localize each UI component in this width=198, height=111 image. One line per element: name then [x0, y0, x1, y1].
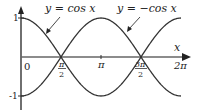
- cos-label-pointer: [48, 17, 60, 31]
- x-tick-label-pi: π: [97, 59, 105, 70]
- x-tick-label-2pi: 2π: [173, 60, 187, 71]
- origin-label: 0: [24, 61, 30, 72]
- x-tick-label-pi-half-den: 2: [59, 70, 64, 79]
- y-axis-arrow-icon: [18, 6, 24, 14]
- x-tick-label-3pi-half-num: 3π: [135, 60, 146, 69]
- cosine-chart: y = cos x y = −cos x x 0 1 -1 π π 2 3π 2…: [0, 0, 198, 111]
- y-tick-label-1: 1: [13, 13, 19, 23]
- x-axis-label: x: [174, 41, 181, 54]
- cos-curve-label: y = cos x: [44, 2, 96, 15]
- neg-cos-curve-label: y = −cos x: [116, 2, 178, 15]
- y-tick-label-neg1: -1: [9, 91, 18, 101]
- neg-cos-label-pointer: [129, 17, 140, 29]
- x-tick-label-pi-half-num: π: [58, 60, 65, 69]
- x-tick-label-3pi-half-den: 2: [138, 70, 143, 79]
